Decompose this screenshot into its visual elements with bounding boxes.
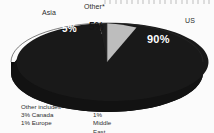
footnote-block: Other includes 3% Canada 1% Middle East … [21, 103, 61, 128]
footnote-title: Other includes [21, 103, 61, 111]
footnote-europe: 1% Europe [21, 119, 52, 127]
slice-value-us: 90% [147, 33, 170, 45]
pie-chart: Asia Other* US 5% 5% 90% Other includes … [0, 0, 214, 133]
footnote-middle-east: 1% Middle East [93, 111, 111, 133]
slice-label-other: Other* [84, 3, 105, 10]
footnote-row: 1% Europe [21, 119, 61, 127]
slice-value-asia: 5% [62, 23, 77, 34]
footnote-canada: 3% Canada [21, 111, 53, 119]
slice-label-us: US [185, 17, 195, 24]
slice-value-other: 5% [89, 21, 104, 32]
slice-label-asia: Asia [42, 9, 56, 16]
footnote-row: 3% Canada 1% Middle East [21, 111, 61, 119]
